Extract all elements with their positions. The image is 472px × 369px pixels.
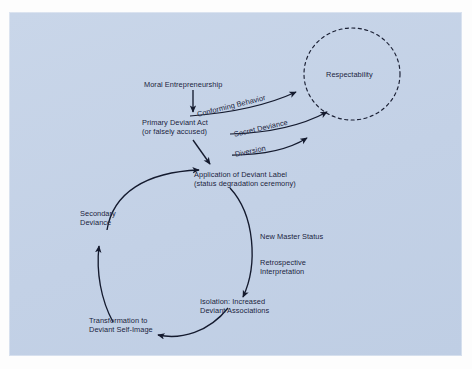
node-application-label-line1: Application of Deviant Label [194,170,287,179]
node-isolation-line1: Isolation: Increased [200,297,265,306]
node-application-label-line2: (status degradation ceremony) [194,179,296,188]
edge-label-new-master-status: New Master Status [260,232,323,241]
diagram-canvas: Moral Entrepreneurship Primary Deviant A… [0,0,472,369]
edge-label-retrospective-line1: Retrospective [260,258,306,267]
edge-primary-to-application [193,140,210,164]
node-primary-deviant-act-line2: (or falsely accused) [142,127,207,136]
node-primary-deviant-act-line1: Primary Deviant Act [142,118,208,127]
node-respectability: Respectability [326,70,373,79]
edge-secondary-to-application [107,170,199,230]
node-transformation-line1: Transformation to [89,316,148,325]
node-isolation-line2: Deviant Associations [200,306,269,315]
node-secondary-deviance-line1: Secondary [80,209,116,218]
edge-application-to-isolation [230,188,252,297]
node-moral-entrepreneurship: Moral Entrepreneurship [144,80,222,89]
edge-transformation-to-secondary [98,246,113,322]
edge-label-retrospective-line2: Interpretation [260,267,304,276]
node-secondary-deviance-line2: Deviance [80,218,111,227]
node-transformation-line2: Deviant Self-Image [89,325,153,334]
